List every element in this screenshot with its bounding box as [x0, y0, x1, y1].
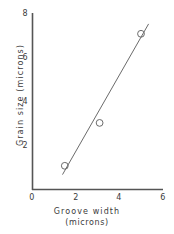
y-axis-label: Grain size (microns) — [16, 44, 25, 146]
x-axis-label-line1: Groove width — [0, 206, 174, 217]
y-tick-label-8: 8 — [18, 9, 28, 18]
x-tick-label-4: 4 — [113, 193, 125, 202]
y-axis-label-wrapper: Grain size (microns) — [8, 30, 20, 160]
trend-line — [63, 24, 149, 175]
data-point — [96, 120, 103, 127]
x-tick-label-0: 0 — [26, 193, 38, 202]
x-axis-label-line2: (microns) — [0, 217, 174, 228]
chart-figure: 8 6 4 2 0 2 4 6 Groove width (microns) G… — [0, 0, 174, 234]
x-tick-label-2: 2 — [70, 193, 82, 202]
x-tick-label-6: 6 — [157, 193, 169, 202]
x-axis-label: Groove width (microns) — [0, 206, 174, 228]
